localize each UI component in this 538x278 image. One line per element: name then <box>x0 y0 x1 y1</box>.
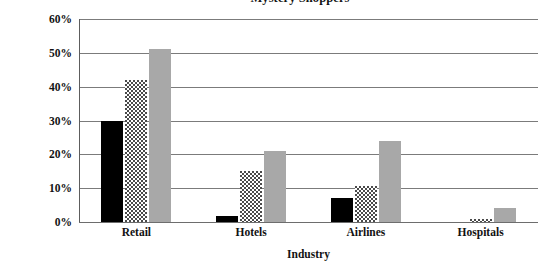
gridline <box>79 222 538 223</box>
bar <box>125 80 147 222</box>
bar <box>240 171 262 222</box>
chart-title: Mystery Shoppers <box>70 0 530 6</box>
bar <box>149 49 171 222</box>
bar <box>264 151 286 222</box>
bar-group <box>216 19 286 222</box>
y-axis-tick-label: 60% <box>49 13 72 25</box>
y-axis-tick-label: 20% <box>49 148 72 160</box>
bar-group <box>446 19 516 222</box>
plot-area: 0%10%20%30%40%50%60% RetailHotelsAirline… <box>79 19 538 222</box>
y-axis-tick-label: 40% <box>49 81 72 93</box>
y-axis-tick-label: 30% <box>49 115 72 127</box>
bar <box>331 198 353 222</box>
x-axis-title: Industry <box>79 248 538 260</box>
bar-group <box>331 19 401 222</box>
x-axis-category-label: Airlines <box>311 226 421 238</box>
x-axis-category-label: Hospitals <box>426 226 536 238</box>
bar-group <box>101 19 171 222</box>
bar <box>355 186 377 222</box>
x-axis-category-label: Hotels <box>196 226 306 238</box>
bar <box>494 208 516 222</box>
y-axis-tick-label: 0% <box>55 216 72 228</box>
bar <box>101 121 123 223</box>
bar <box>379 141 401 222</box>
x-axis-category-label: Retail <box>81 226 191 238</box>
bar <box>470 219 492 222</box>
y-axis-line <box>79 19 80 222</box>
y-axis-tick-label: 50% <box>49 47 72 59</box>
bar <box>216 216 238 222</box>
y-axis-tick-label: 10% <box>49 182 72 194</box>
bar-chart: Mystery Shoppers Percent of Individual B… <box>0 0 538 278</box>
